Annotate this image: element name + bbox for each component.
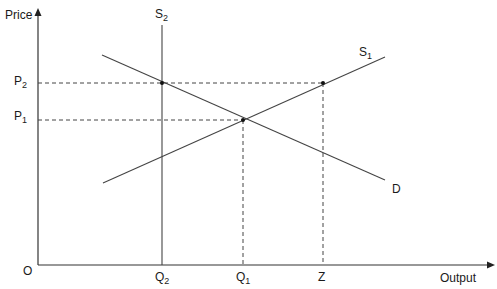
y-axis-label: Price	[5, 9, 32, 21]
curve-label-d: D	[392, 183, 401, 195]
quantity-label-q1: Q1	[236, 271, 250, 286]
price-label-p2: P2	[14, 75, 27, 90]
point-s2-d	[160, 81, 164, 85]
price-label-p1: P1	[14, 110, 27, 125]
point-s1-p2	[321, 81, 325, 85]
x-axis-arrow-icon	[487, 262, 495, 269]
x-axis-label: Output	[440, 272, 476, 284]
quantity-label-z: Z	[318, 271, 325, 283]
supply-demand-diagram	[0, 0, 497, 289]
quantity-label-q2: Q2	[155, 271, 169, 286]
curve-label-s1: S1	[359, 46, 372, 61]
demand-curve	[102, 55, 385, 180]
curve-label-s2: S2	[155, 8, 168, 23]
y-axis-arrow-icon	[35, 8, 42, 16]
origin-label: O	[23, 265, 32, 277]
point-equilibrium	[241, 118, 245, 122]
